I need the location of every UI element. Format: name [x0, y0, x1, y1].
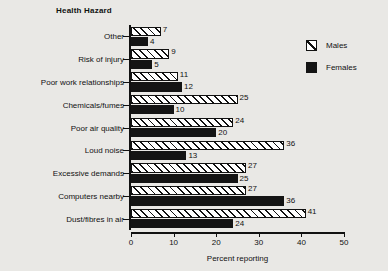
category-label: Risk of injury	[78, 55, 124, 64]
category-label: Other	[104, 32, 124, 41]
bar-females	[131, 37, 148, 46]
x-tick-label: 30	[254, 238, 263, 247]
x-tick	[216, 232, 217, 237]
value-label-males: 11	[180, 71, 188, 79]
value-label-males: 27	[248, 162, 257, 170]
category-label: Dust/fibres in air	[66, 214, 124, 223]
legend-label-females: Females	[326, 62, 357, 73]
bar-males	[131, 141, 284, 150]
bar-males	[131, 95, 238, 104]
bar-females	[131, 82, 182, 91]
bar-males	[131, 118, 233, 127]
hatched-box-icon	[306, 40, 317, 51]
value-label-females: 20	[218, 129, 227, 137]
category-label: Computers nearby	[58, 191, 124, 200]
value-label-males: 27	[248, 185, 257, 193]
legend-label-males: Males	[326, 40, 347, 51]
value-label-females: 13	[188, 152, 197, 160]
bar-males	[131, 209, 306, 218]
category-label: Poor work relationships	[41, 77, 124, 86]
bar-females	[131, 196, 284, 205]
value-label-females: 25	[240, 175, 249, 183]
bar-chart: Health Hazard 01020304050 Percent report…	[0, 0, 388, 271]
value-label-males: 25	[240, 94, 249, 102]
bar-females	[131, 219, 233, 228]
bar-males	[131, 163, 246, 172]
bar-females	[131, 60, 152, 69]
x-tick	[174, 232, 175, 237]
x-tick-label: 0	[129, 238, 133, 247]
category-label: Chemicals/fumes	[63, 100, 124, 109]
category-label: Poor air quality	[71, 123, 124, 132]
x-tick	[259, 232, 260, 237]
value-label-females: 36	[286, 197, 295, 205]
x-tick-label: 40	[297, 238, 306, 247]
value-label-males: 9	[171, 48, 175, 56]
bar-males	[131, 49, 169, 58]
bar-males	[131, 186, 246, 195]
bar-females	[131, 174, 238, 183]
bar-males	[131, 27, 161, 36]
bar-females	[131, 151, 186, 160]
x-tick-label: 50	[340, 238, 349, 247]
x-tick-label: 20	[212, 238, 221, 247]
x-tick-label: 10	[169, 238, 178, 247]
x-tick	[131, 232, 132, 237]
value-label-females: 12	[184, 83, 193, 91]
value-label-males: 24	[235, 117, 244, 125]
value-label-males: 7	[163, 26, 167, 34]
bar-males	[131, 72, 178, 81]
value-label-males: 41	[308, 208, 317, 216]
chart-title: Health Hazard	[56, 6, 112, 15]
bar-females	[131, 105, 174, 114]
x-tick	[301, 232, 302, 237]
category-label: Loud noise	[85, 146, 124, 155]
value-label-females: 24	[235, 220, 244, 228]
value-label-females: 4	[150, 38, 154, 46]
x-axis-line	[131, 232, 344, 234]
category-label: Excessive demands	[53, 169, 124, 178]
x-axis-label: Percent reporting	[131, 254, 344, 263]
bar-females	[131, 128, 216, 137]
value-label-females: 10	[176, 106, 185, 114]
value-label-females: 5	[154, 61, 158, 69]
solid-black-box-icon	[306, 62, 317, 73]
value-label-males: 36	[286, 140, 295, 148]
x-tick	[344, 232, 345, 237]
